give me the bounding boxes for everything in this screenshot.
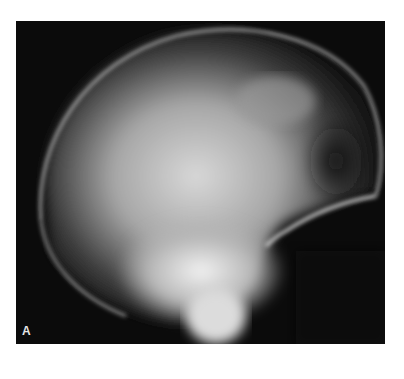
skull-xray-image — [16, 21, 385, 344]
panel-label: A — [22, 324, 31, 338]
radiograph-panel: A — [16, 21, 385, 344]
